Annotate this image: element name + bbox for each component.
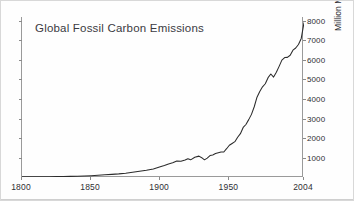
y-axis-tick-label: 1000	[307, 153, 325, 162]
y-axis-left-tick-mark	[19, 60, 22, 61]
y-axis-tick-mark	[303, 21, 306, 22]
x-axis-tick-label: 2004	[293, 182, 313, 192]
y-axis-tick-mark	[303, 158, 306, 159]
figure-bottom-rule	[1, 199, 354, 200]
y-axis-left-tick-mark	[19, 158, 22, 159]
y-axis-tick-label: 6000	[307, 55, 325, 64]
y-axis-tick-mark	[303, 138, 306, 139]
y-axis-tick-label: 4000	[307, 95, 325, 104]
y-axis-left-tick-mark	[19, 119, 22, 120]
y-axis-tick-mark	[303, 79, 306, 80]
x-axis-tick-mark	[228, 177, 229, 180]
y-axis-left-tick-mark	[19, 21, 22, 22]
y-axis-tick-label: 8000	[307, 16, 325, 25]
x-axis-tick-mark	[303, 177, 304, 180]
chart-figure: Global Fossil Carbon Emissions 100020003…	[0, 0, 354, 201]
emissions-line-series	[22, 17, 304, 177]
x-axis-tick-mark	[21, 177, 22, 180]
y-axis-tick-mark	[303, 60, 306, 61]
y-axis-tick-label: 3000	[307, 114, 325, 123]
y-axis-left-tick-mark	[19, 79, 22, 80]
x-axis-tick-label: 1950	[219, 182, 239, 192]
y-axis-tick-mark	[303, 119, 306, 120]
plot-area	[21, 17, 303, 177]
x-axis-tick-mark	[159, 177, 160, 180]
x-axis-tick-mark	[90, 177, 91, 180]
y-axis-left-tick-mark	[19, 99, 22, 100]
y-axis-title: Million Metric Tons of Carbon / Year	[331, 0, 345, 31]
y-axis-left-tick-mark	[19, 138, 22, 139]
y-axis-tick-mark	[303, 40, 306, 41]
y-axis-tick-label: 7000	[307, 36, 325, 45]
y-axis-left-tick-mark	[19, 40, 22, 41]
x-axis-tick-label: 1800	[11, 182, 31, 192]
y-axis-tick-label: 2000	[307, 134, 325, 143]
x-axis-tick-label: 1850	[80, 182, 100, 192]
x-axis-tick-label: 1900	[149, 182, 169, 192]
y-axis-tick-mark	[303, 99, 306, 100]
y-axis-tick-label: 5000	[307, 75, 325, 84]
